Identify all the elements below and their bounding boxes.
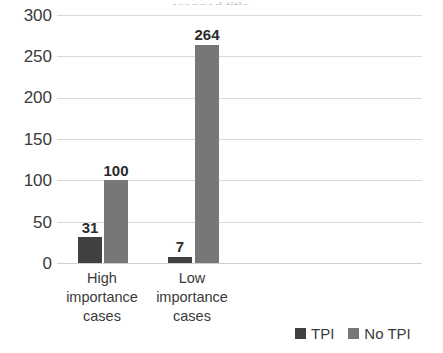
data-label-high-notpi: 100	[95, 163, 137, 178]
category-high-line3: cases	[54, 307, 150, 326]
chart-title-cropped: cropped title	[120, 0, 300, 5]
legend: TPI No TPI	[295, 325, 411, 342]
data-label-low-tpi: 7	[159, 239, 201, 254]
legend-swatch-tpi-icon	[295, 328, 306, 339]
category-low-line2: importance	[144, 288, 240, 307]
y-tick-50: 50	[0, 214, 52, 231]
bar-low-notpi[interactable]	[195, 45, 219, 263]
bar-high-tpi[interactable]	[78, 237, 102, 263]
category-high-line1: High	[54, 269, 150, 288]
category-low-line3: cases	[144, 307, 240, 326]
bar-low-tpi[interactable]	[168, 257, 192, 263]
plot-area: 31 100 7 264	[57, 15, 422, 263]
gridline-200	[57, 98, 422, 99]
legend-item-no-tpi[interactable]: No TPI	[348, 325, 410, 342]
category-high-line2: importance	[54, 288, 150, 307]
category-low-line1: Low	[144, 269, 240, 288]
y-tick-100: 100	[0, 172, 52, 189]
bar-chart: cropped title 300 250 200 150 100 50 0 3…	[0, 0, 443, 353]
gridline-150	[57, 139, 422, 140]
legend-swatch-no-tpi-icon	[348, 328, 359, 339]
y-tick-150: 150	[0, 131, 52, 148]
gridline-300	[57, 15, 422, 16]
legend-label-no-tpi: No TPI	[364, 325, 410, 342]
category-label-high-importance: High importance cases	[54, 269, 150, 326]
y-axis-labels: 300 250 200 150 100 50 0	[0, 0, 52, 353]
legend-item-tpi[interactable]: TPI	[295, 325, 334, 342]
y-tick-0: 0	[0, 255, 52, 272]
legend-label-tpi: TPI	[311, 325, 334, 342]
category-label-low-importance: Low importance cases	[144, 269, 240, 326]
y-tick-200: 200	[0, 89, 52, 106]
data-label-low-notpi: 264	[186, 27, 228, 42]
data-label-high-tpi: 31	[69, 220, 111, 235]
gridline-250	[57, 56, 422, 57]
gridline-0	[57, 263, 422, 264]
y-tick-300: 300	[0, 7, 52, 24]
y-tick-250: 250	[0, 48, 52, 65]
